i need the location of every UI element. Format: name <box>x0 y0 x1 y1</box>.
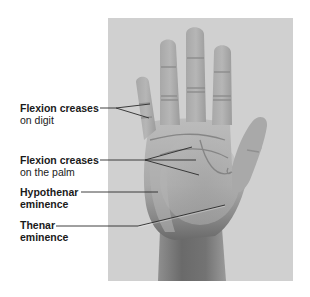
label-hypothenar-eminence: Hypothenar eminence <box>20 186 78 210</box>
hand-photo <box>0 0 310 297</box>
label-title: Flexion creases <box>20 154 99 166</box>
label-flexion-creases-digit: Flexion creases on digit <box>20 102 99 126</box>
label-flexion-creases-palm: Flexion creases on the palm <box>20 154 99 178</box>
label-subtitle: eminence <box>20 231 68 243</box>
label-title: Flexion creases <box>20 102 99 114</box>
label-subtitle: on the palm <box>20 166 99 178</box>
label-subtitle: on digit <box>20 114 99 126</box>
label-thenar-eminence: Thenar eminence <box>20 219 68 243</box>
label-title: Hypothenar <box>20 186 78 198</box>
label-subtitle: eminence <box>20 198 78 210</box>
label-title: Thenar <box>20 219 68 231</box>
hand-anatomy-figure: Flexion creases on digit Flexion creases… <box>0 0 310 297</box>
